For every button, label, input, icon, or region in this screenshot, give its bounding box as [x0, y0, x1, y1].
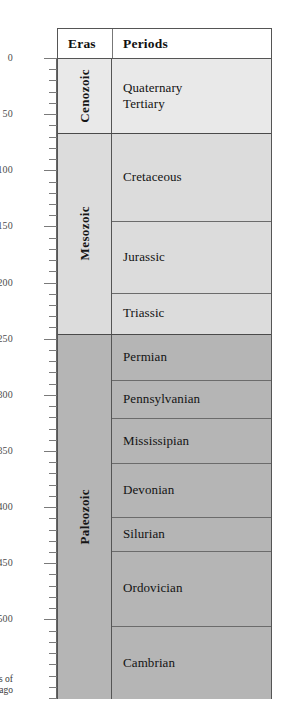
axis-tick-label: 250 — [0, 334, 13, 344]
axis-tick-minor — [49, 69, 57, 70]
axis-tick-minor — [49, 316, 57, 317]
period-divider — [112, 626, 271, 627]
era-label: Cenozoic — [77, 69, 93, 123]
axis-tick-minor — [49, 215, 57, 216]
axis-tick-minor — [49, 350, 57, 351]
axis-tick-major — [44, 283, 57, 284]
axis-tick-minor — [49, 92, 57, 93]
period-row: Cambrian — [112, 626, 271, 699]
axis-tick-minor — [49, 608, 57, 609]
axis-tick-major — [44, 451, 57, 452]
axis-tick-major — [44, 507, 57, 508]
axis-tick-minor — [49, 473, 57, 474]
axis-tick-minor — [49, 485, 57, 486]
axis-tick-label: 400 — [0, 502, 13, 512]
table-header-row: Eras Periods — [58, 29, 271, 59]
period-divider — [112, 418, 271, 419]
axis-tick-label: 200 — [0, 278, 13, 288]
axis-tick-minor — [49, 429, 57, 430]
axis-tick-minor — [49, 238, 57, 239]
axis-tick-minor — [49, 103, 57, 104]
axis-tick-major — [44, 114, 57, 115]
axis-tick-minor — [49, 80, 57, 81]
axis-tick-minor — [49, 518, 57, 519]
period-divider — [112, 380, 271, 381]
axis-tick-major — [44, 58, 57, 59]
period-label: Cambrian — [112, 655, 175, 671]
axis-tick-minor — [49, 327, 57, 328]
axis-tick-minor — [49, 664, 57, 665]
time-axis: 050100150200250300350400450500 Millions … — [0, 0, 57, 714]
axis-tick-minor — [49, 159, 57, 160]
axis-tick-minor — [49, 462, 57, 463]
era-label: Mesozoic — [77, 206, 93, 260]
axis-tick-minor — [49, 372, 57, 373]
eras-periods-table: Eras Periods CenozoicQuaternaryTertiaryM… — [57, 28, 272, 699]
axis-tick-minor — [49, 597, 57, 598]
period-label: Quaternary — [123, 80, 182, 96]
period-label: Silurian — [112, 526, 165, 542]
period-label: Jurassic — [112, 249, 165, 265]
column-header-periods: Periods — [123, 29, 168, 58]
axis-caption-line1: Millions of — [0, 674, 13, 685]
axis-tick-minor — [49, 530, 57, 531]
period-label: Triassic — [112, 305, 165, 321]
era-divider — [58, 334, 271, 335]
axis-tick-minor — [49, 440, 57, 441]
axis-tick-minor — [49, 204, 57, 205]
axis-tick-minor — [49, 406, 57, 407]
period-label: Mississipian — [112, 433, 189, 449]
axis-tick-minor — [49, 574, 57, 575]
axis-tick-minor — [49, 642, 57, 643]
axis-tick-minor — [49, 541, 57, 542]
axis-tick-label: 300 — [0, 390, 13, 400]
axis-tick-minor — [49, 137, 57, 138]
axis-tick-minor — [49, 361, 57, 362]
axis-tick-minor — [49, 384, 57, 385]
axis-tick-label: 50 — [0, 109, 13, 119]
period-divider — [112, 517, 271, 518]
era-label-cell: Paleozoic — [58, 334, 112, 699]
axis-tick-minor — [49, 631, 57, 632]
axis-tick-label: 500 — [0, 614, 13, 624]
axis-tick-minor — [49, 676, 57, 677]
period-row: QuaternaryTertiary — [112, 59, 271, 133]
axis-tick-major — [44, 563, 57, 564]
era-label-cell: Mesozoic — [58, 133, 112, 334]
era-label-cell: Cenozoic — [58, 59, 112, 133]
era-divider — [58, 133, 271, 134]
axis-tick-major — [44, 395, 57, 396]
axis-tick-minor — [49, 552, 57, 553]
axis-tick-minor — [49, 148, 57, 149]
period-label: Pennsylvanian — [112, 391, 200, 407]
period-divider — [112, 551, 271, 552]
axis-tick-major — [44, 339, 57, 340]
axis-tick-minor — [49, 182, 57, 183]
axis-tick-major — [44, 170, 57, 171]
period-row: Devonian — [112, 463, 271, 517]
axis-tick-minor — [49, 294, 57, 295]
period-row: Ordovician — [112, 551, 271, 626]
axis-tick-major — [44, 226, 57, 227]
era-label: Paleozoic — [77, 489, 93, 545]
period-label: Tertiary — [123, 96, 182, 112]
period-row: Jurassic — [112, 221, 271, 293]
axis-tick-minor — [49, 653, 57, 654]
period-label: Ordovician — [112, 580, 182, 596]
period-row: Silurian — [112, 517, 271, 551]
period-divider — [112, 463, 271, 464]
axis-tick-minor — [49, 260, 57, 261]
period-row: Permian — [112, 334, 271, 380]
axis-tick-minor — [49, 271, 57, 272]
axis-tick-minor — [49, 698, 57, 699]
period-label: Cretaceous — [112, 169, 182, 185]
axis-tick-minor — [49, 193, 57, 194]
axis-caption-line2: years ago — [0, 685, 13, 696]
axis-tick-minor — [49, 687, 57, 688]
axis-tick-minor — [49, 586, 57, 587]
axis-tick-minor — [49, 249, 57, 250]
axis-tick-label: 150 — [0, 221, 13, 231]
period-row: Pennsylvanian — [112, 380, 271, 418]
period-label: Permian — [112, 349, 167, 365]
period-divider — [112, 293, 271, 294]
